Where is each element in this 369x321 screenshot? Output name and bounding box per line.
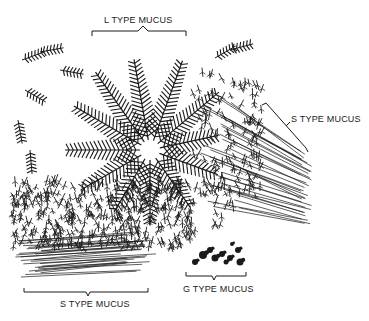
dense-crystal-region bbox=[9, 68, 265, 252]
l-type-mucus-label: L TYPE MUCUS bbox=[104, 15, 172, 25]
s-type-right-pointer bbox=[286, 122, 290, 126]
s-type-mucus-right-label: S TYPE MUCUS bbox=[291, 114, 361, 124]
s-type-mucus-bottom-label: S TYPE MUCUS bbox=[60, 299, 130, 309]
mucus-drawing bbox=[0, 0, 369, 321]
g-type-blobs bbox=[192, 242, 245, 266]
g-type-mucus-label: G TYPE MUCUS bbox=[183, 284, 254, 294]
mucus-illustration: L TYPE MUCUS S TYPE MUCUS S TYPE MUCUS G… bbox=[0, 0, 369, 321]
s-type-bottom-bracket bbox=[24, 288, 148, 296]
s-type-right-bracket bbox=[262, 103, 308, 152]
l-type-bracket bbox=[92, 26, 186, 36]
g-type-bracket bbox=[186, 272, 246, 280]
